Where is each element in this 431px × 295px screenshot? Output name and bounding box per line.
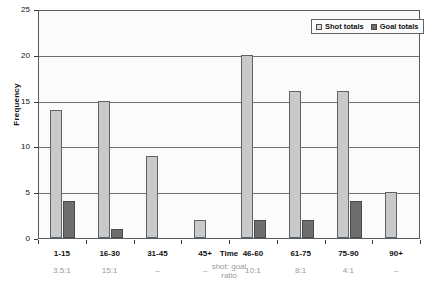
legend-item-goal-totals: Goal totals <box>371 22 419 31</box>
x-axis-tick-mark <box>229 240 230 244</box>
y-axis-tick-label: 15 <box>8 98 30 106</box>
bar-goal-totals <box>350 201 362 238</box>
gridline <box>39 56 419 57</box>
bar-goal-totals <box>302 220 314 238</box>
y-axis-tick-label: 5 <box>8 189 30 197</box>
x-axis-title: Time <box>199 249 259 258</box>
x-axis-category-label: 90+ <box>366 249 426 258</box>
goal-swatch-icon <box>371 24 377 30</box>
gridline <box>39 147 419 148</box>
x-axis-tick-mark <box>38 240 39 244</box>
x-axis-tick-mark <box>420 240 421 244</box>
bar-goal-totals <box>63 201 75 238</box>
bar-chart-figure: Frequency 0510152025 1-1516-3031-4545+46… <box>0 0 431 295</box>
bar-shot-totals <box>98 101 110 238</box>
plot-area <box>38 10 420 239</box>
y-axis-tick-label: 10 <box>8 143 30 151</box>
ratio-row-label-line1: shot: goal <box>197 262 261 271</box>
x-axis-tick-mark <box>325 240 326 244</box>
y-axis-tick-label: 0 <box>8 235 30 243</box>
x-axis-tick-mark <box>372 240 373 244</box>
legend-label-shot-totals: Shot totals <box>325 22 364 31</box>
legend-label-goal-totals: Goal totals <box>380 22 419 31</box>
bar-goal-totals <box>111 229 123 238</box>
bar-shot-totals <box>241 55 253 238</box>
bar-shot-totals <box>289 91 301 238</box>
bar-shot-totals <box>194 220 206 238</box>
bar-shot-totals <box>146 156 158 238</box>
bar-shot-totals <box>385 192 397 238</box>
chart-legend: Shot totals Goal totals <box>311 19 424 34</box>
shot-goal-ratio-row-label: shot: goal ratio <box>197 262 261 280</box>
shot-goal-ratio-value: – <box>366 266 426 275</box>
bar-shot-totals <box>337 91 349 238</box>
gridline <box>39 102 419 103</box>
ratio-row-label-line2: ratio <box>197 271 261 280</box>
gridline <box>39 193 419 194</box>
x-axis-tick-mark <box>134 240 135 244</box>
shot-swatch-icon <box>316 24 322 30</box>
y-axis-tick-label: 20 <box>8 52 30 60</box>
bar-shot-totals <box>50 110 62 238</box>
x-axis-tick-mark <box>277 240 278 244</box>
x-axis-tick-mark <box>86 240 87 244</box>
y-axis-tick-label: 25 <box>8 6 30 14</box>
bar-goal-totals <box>254 220 266 238</box>
x-axis-tick-mark <box>181 240 182 244</box>
legend-item-shot-totals: Shot totals <box>316 22 364 31</box>
